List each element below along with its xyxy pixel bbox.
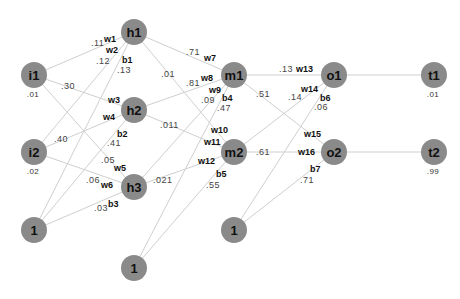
node-h3: h3	[121, 174, 147, 200]
b5-value: .55	[206, 180, 220, 190]
node-h2: h2	[121, 97, 147, 123]
nodes: i1 .01 i2 .02 1 h1 h2 h3 1	[21, 19, 447, 281]
w16-value: .61	[256, 147, 270, 157]
node-bias-hidden1-label: 1	[130, 261, 137, 276]
b3-name: b3	[108, 199, 119, 209]
w11-name: w11	[203, 137, 221, 147]
w11-value: .011	[160, 120, 179, 130]
w8-name: w8	[200, 73, 213, 83]
node-m2-label: m2	[225, 145, 244, 160]
b7-value: .71	[300, 175, 314, 185]
node-bias-hidden2: 1	[221, 217, 247, 243]
node-h2-label: h2	[126, 103, 141, 118]
node-bias-hidden2-label: 1	[230, 223, 237, 238]
b5-name: b5	[216, 169, 227, 179]
w3-name: w3	[107, 95, 120, 105]
w13-name: w13	[295, 64, 313, 74]
node-bias-input: 1	[21, 217, 47, 243]
w8-value: .81	[186, 78, 200, 88]
node-t1-value: .01	[427, 90, 440, 99]
w3-value: .30	[61, 81, 75, 91]
w15-value: .51	[256, 89, 270, 99]
node-t1-label: t1	[428, 68, 440, 83]
node-h3-label: h3	[126, 180, 141, 195]
w14-name: w14	[300, 84, 318, 94]
b4-value: .47	[217, 103, 231, 113]
node-o1-label: o1	[326, 68, 341, 83]
node-i2: i2 .02	[21, 139, 47, 176]
w6-value: .06	[86, 175, 100, 185]
b1-value: .13	[117, 65, 131, 75]
w10-name: w10	[210, 125, 228, 135]
b2-value: .41	[107, 138, 121, 148]
edge-b3-bias1-h3	[34, 187, 134, 230]
w2-name: w2	[105, 45, 118, 55]
w10-value: .01	[161, 69, 175, 79]
b7-name: b7	[310, 164, 321, 174]
w13-value: .13	[279, 64, 293, 74]
w1-value: .11	[91, 38, 104, 48]
w5-value: .05	[101, 155, 115, 165]
node-i1-value: .01	[27, 90, 40, 99]
node-m2: m2	[221, 139, 247, 165]
node-m1: m1	[221, 62, 247, 88]
b1-name: b1	[122, 55, 133, 65]
w4-value: .40	[54, 134, 68, 144]
node-i2-value: .02	[27, 167, 40, 176]
node-t2-value: .99	[427, 167, 440, 176]
node-o2-label: o2	[326, 145, 341, 160]
node-h1: h1	[121, 19, 147, 45]
neural-network-diagram: .11 w1 w2 .12 b1 .13 .30 w3 w4 .40 b2 .4…	[0, 0, 460, 299]
node-m1-label: m1	[225, 68, 244, 83]
edge-w7-h1-m1	[134, 32, 234, 75]
w7-name: w7	[203, 53, 216, 63]
w4-name: w4	[102, 112, 115, 122]
node-bias-input-label: 1	[30, 223, 37, 238]
w5-name: w5	[113, 163, 126, 173]
w12-value: .021	[153, 175, 173, 185]
node-i2-label: i2	[29, 145, 40, 160]
w9-value: .09	[201, 95, 215, 105]
node-o1: o1	[321, 62, 347, 88]
node-t2: t2 .99	[421, 139, 447, 176]
w9-name: w9	[208, 85, 221, 95]
b3-value: .03	[94, 203, 108, 213]
w7-value: .71	[186, 47, 200, 57]
w16-name: w16	[297, 147, 315, 157]
node-h1-label: h1	[126, 25, 141, 40]
w1-name: w1	[103, 34, 116, 44]
w15-name: w15	[303, 129, 321, 139]
node-i1: i1 .01	[21, 62, 47, 99]
w14-value: .14	[288, 92, 302, 102]
node-t2-label: t2	[428, 145, 440, 160]
node-bias-hidden1: 1	[121, 255, 147, 281]
node-t1: t1 .01	[421, 62, 447, 99]
weight-labels: .11 w1 w2 .12 b1 .13 .30 w3 w4 .40 b2 .4…	[54, 34, 331, 213]
w2-value: .12	[96, 56, 110, 66]
b4-name: b4	[222, 93, 233, 103]
w6-name: w6	[100, 180, 113, 190]
b6-value: .06	[314, 102, 328, 112]
node-i1-label: i1	[29, 68, 40, 83]
node-o2: o2	[321, 139, 347, 165]
w12-name: w12	[197, 156, 215, 166]
